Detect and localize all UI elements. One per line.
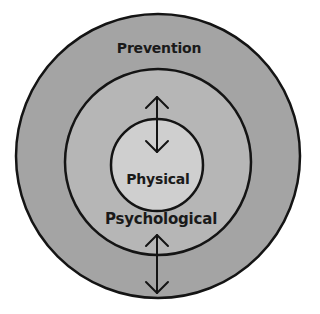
prevention-label: Prevention [117,40,201,56]
psychological-label: Psychological [105,210,217,228]
physical-label: Physical [126,171,189,187]
